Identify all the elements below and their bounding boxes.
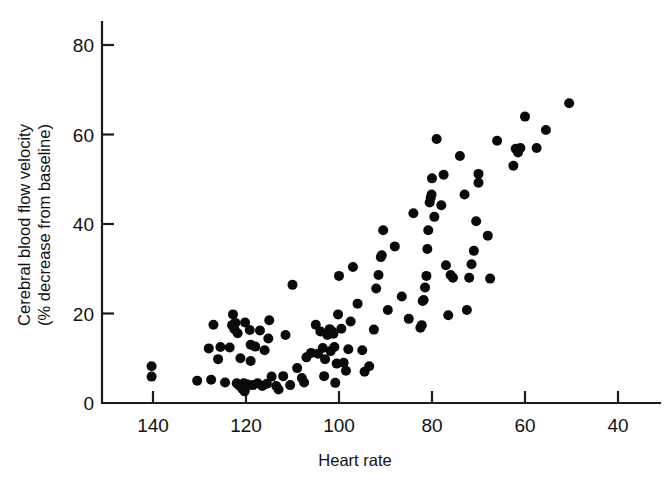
x-tick-label: 60 (514, 415, 535, 436)
y-tick-label: 40 (73, 214, 94, 235)
y-axis-title-line1: Cerebral blood flow velocity (15, 123, 33, 326)
data-point (288, 280, 298, 290)
data-point (462, 305, 472, 315)
x-tick-label: 40 (607, 415, 628, 436)
data-point (192, 376, 202, 386)
data-point (339, 358, 349, 368)
data-point (225, 343, 235, 353)
data-point (329, 342, 339, 352)
x-axis-title: Heart rate (318, 451, 391, 469)
data-point (246, 356, 256, 366)
data-point (471, 216, 481, 226)
data-point (443, 310, 453, 320)
y-axis-title-line2: (% decrease from baseline) (35, 124, 53, 326)
data-point (255, 326, 265, 336)
data-point (260, 345, 270, 355)
data-point (467, 259, 477, 269)
data-point (364, 361, 374, 371)
data-point (346, 317, 356, 327)
data-point (369, 325, 379, 335)
data-point (474, 169, 484, 179)
data-point (541, 125, 551, 135)
data-point (421, 271, 431, 281)
y-axis-ticks: 020406080 (73, 35, 114, 414)
data-point (208, 320, 218, 330)
data-point (348, 262, 358, 272)
chart-canvas: Cerebral blood flow velocity (% decrease… (0, 0, 671, 478)
data-point (469, 246, 479, 256)
data-point (417, 320, 427, 330)
data-point (204, 343, 214, 353)
data-point (220, 377, 230, 387)
x-tick-label: 100 (323, 415, 355, 436)
data-point (319, 371, 329, 381)
data-point (432, 134, 442, 144)
y-tick-label: 60 (73, 125, 94, 146)
data-point (336, 324, 346, 334)
data-point (147, 361, 157, 371)
data-point (427, 189, 437, 199)
data-point (390, 241, 400, 251)
data-point (377, 250, 387, 260)
data-point (147, 372, 157, 382)
data-point (371, 283, 381, 293)
data-point (206, 375, 216, 385)
y-tick-label: 0 (83, 393, 94, 414)
data-point (455, 151, 465, 161)
data-point (474, 178, 484, 188)
data-point (378, 225, 388, 235)
data-point (448, 273, 458, 283)
data-point (246, 340, 256, 350)
data-point (233, 328, 243, 338)
data-point (330, 378, 340, 388)
y-axis-title: Cerebral blood flow velocity (% decrease… (15, 123, 53, 326)
x-tick-label: 80 (421, 415, 442, 436)
data-point (515, 143, 525, 153)
data-point (492, 136, 502, 146)
data-point (429, 212, 439, 222)
data-point (441, 260, 451, 270)
data-point (353, 299, 363, 309)
data-point (299, 377, 309, 387)
data-point (483, 231, 493, 241)
data-point (267, 372, 277, 382)
data-point (423, 225, 433, 235)
data-point (508, 161, 518, 171)
data-point (213, 354, 223, 364)
data-point (357, 345, 367, 355)
x-axis-ticks: 140120100806040 (137, 391, 628, 436)
data-point (404, 314, 414, 324)
data-point (420, 283, 430, 293)
data-point (285, 380, 295, 390)
data-point (419, 295, 429, 305)
data-point (408, 208, 418, 218)
axis-lines (102, 22, 660, 403)
data-point (264, 315, 274, 325)
data-point (436, 200, 446, 210)
data-point (460, 189, 470, 199)
data-point (427, 173, 437, 183)
data-point (520, 112, 530, 122)
data-point (230, 318, 240, 328)
data-point (485, 274, 495, 284)
data-point (383, 305, 393, 315)
data-point (464, 273, 474, 283)
x-tick-label: 120 (230, 415, 262, 436)
data-point (334, 271, 344, 281)
y-tick-label: 20 (73, 304, 94, 325)
data-point (374, 270, 384, 280)
scatter-plot-figure: Cerebral blood flow velocity (% decrease… (0, 0, 671, 478)
data-point (439, 170, 449, 180)
data-point (320, 354, 330, 364)
data-point (278, 371, 288, 381)
data-point (422, 244, 432, 254)
data-point (235, 353, 245, 363)
data-point (263, 334, 273, 344)
y-tick-label: 80 (73, 35, 94, 56)
data-point (292, 363, 302, 373)
data-point (343, 344, 353, 354)
data-point (281, 330, 291, 340)
data-points-layer (147, 98, 575, 396)
x-tick-label: 140 (137, 415, 169, 436)
data-point (397, 292, 407, 302)
